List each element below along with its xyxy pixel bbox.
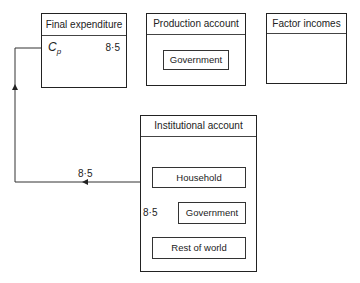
production-account: Production account Government [146, 13, 246, 86]
flow-value-household-to-cp: 8·5 [78, 168, 92, 179]
final-expenditure-account: Final expenditure Cp 8·5 [41, 13, 127, 88]
production-government-box: Government [163, 50, 229, 70]
factor-incomes-title: Factor incomes [267, 14, 346, 34]
factor-incomes-account: Factor incomes [266, 13, 347, 84]
cp-symbol: C [48, 40, 57, 54]
cp-subscript: p [57, 47, 61, 56]
cp-value: 8·5 [106, 42, 120, 53]
household-box: Household [152, 167, 246, 188]
cp-label: Cp [48, 40, 61, 56]
institutional-account-title: Institutional account [141, 116, 256, 137]
flow-value-row-to-household: 8·5 [143, 207, 157, 218]
production-account-title: Production account [147, 14, 245, 35]
arrow-left-icon [82, 179, 88, 185]
arrow-up-icon [12, 84, 18, 90]
institutional-government-box: Government [178, 202, 246, 224]
final-expenditure-title: Final expenditure [42, 14, 126, 36]
rest-of-world-box: Rest of world [152, 237, 246, 259]
